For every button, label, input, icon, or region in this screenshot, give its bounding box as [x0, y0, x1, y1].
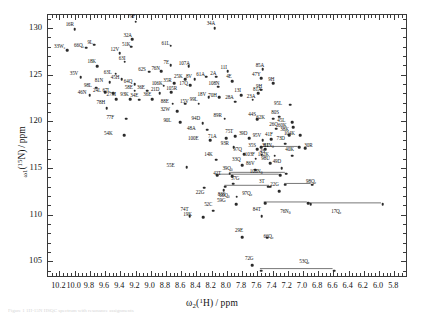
peak-marker[interactable]	[205, 75, 208, 78]
peak-marker[interactable]	[234, 100, 237, 103]
peak-marker[interactable]	[160, 70, 163, 73]
sidechain-peak-marker[interactable]	[229, 172, 232, 175]
peak-marker[interactable]	[95, 86, 98, 89]
peak-marker[interactable]	[73, 28, 76, 31]
peak-marker[interactable]	[231, 175, 234, 178]
sidechain-peak-marker[interactable]	[298, 146, 301, 149]
peak-marker[interactable]	[248, 137, 251, 140]
sidechain-peak-marker[interactable]	[333, 269, 336, 272]
peak-marker[interactable]	[241, 236, 244, 239]
sidechain-peak-marker[interactable]	[260, 269, 263, 272]
sidechain-peak-marker[interactable]	[269, 185, 272, 188]
peak-marker[interactable]	[134, 20, 137, 23]
peak-marker[interactable]	[235, 203, 238, 206]
sidechain-peak-marker[interactable]	[285, 172, 288, 175]
peak-marker[interactable]	[112, 92, 115, 95]
peak-label: 75T	[225, 129, 233, 134]
peak-marker[interactable]	[146, 89, 149, 92]
x-axis-tick	[227, 271, 228, 276]
peak-marker[interactable]	[225, 137, 228, 140]
peak-marker[interactable]	[212, 210, 215, 213]
x-axis-minor-tick	[94, 273, 95, 276]
peak-marker[interactable]	[105, 107, 108, 110]
peak-marker[interactable]	[169, 64, 172, 67]
peak-marker[interactable]	[284, 142, 287, 145]
peak-marker[interactable]	[291, 121, 294, 124]
peak-marker[interactable]	[185, 166, 188, 169]
peak-marker[interactable]	[169, 44, 172, 47]
peak-marker[interactable]	[85, 46, 88, 49]
peak-marker[interactable]	[197, 102, 200, 105]
plot-area[interactable]: 29E72G19K59G83S37G42T74T52C84T3T22G49D55…	[47, 14, 407, 277]
peak-marker[interactable]	[179, 121, 182, 124]
peak-marker[interactable]	[93, 44, 96, 47]
peak-marker[interactable]	[291, 155, 294, 158]
peak-marker[interactable]	[213, 27, 216, 30]
peak-marker[interactable]	[151, 98, 154, 101]
peak-label: 51K	[122, 42, 130, 47]
peak-marker[interactable]	[202, 216, 205, 219]
peak-marker[interactable]	[274, 155, 277, 158]
x-axis-tick	[59, 271, 60, 276]
sidechain-peak-marker[interactable]	[309, 203, 312, 206]
peak-marker[interactable]	[188, 215, 191, 218]
peak-marker[interactable]	[172, 102, 175, 105]
peak-marker[interactable]	[235, 196, 238, 199]
peak-marker[interactable]	[133, 83, 136, 86]
peak-marker[interactable]	[240, 94, 243, 97]
x-axis-minor-tick	[253, 273, 254, 276]
x-axis-minor-tick	[311, 273, 312, 276]
peak-marker[interactable]	[251, 264, 254, 267]
x-axis-tick	[166, 15, 167, 20]
peak-marker[interactable]	[115, 98, 118, 101]
peak-marker[interactable]	[66, 49, 69, 52]
peak-marker[interactable]	[148, 71, 151, 74]
sidechain-peak-marker[interactable]	[284, 183, 287, 186]
peak-marker[interactable]	[269, 162, 272, 165]
sidechain-peak-marker[interactable]	[382, 203, 385, 206]
peak-marker[interactable]	[121, 78, 124, 81]
peak-marker[interactable]	[125, 117, 128, 120]
peak-marker[interactable]	[79, 76, 82, 79]
peak-marker[interactable]	[218, 96, 221, 99]
x-axis-tick-label: 9.6	[99, 282, 109, 290]
peak-marker[interactable]	[270, 138, 273, 141]
sidechain-peak-marker[interactable]	[224, 185, 227, 188]
peak-marker[interactable]	[133, 89, 136, 92]
peak-marker[interactable]	[176, 110, 179, 113]
peak-marker[interactable]	[272, 117, 275, 120]
peak-marker[interactable]	[280, 167, 283, 170]
peak-marker[interactable]	[108, 81, 111, 84]
peak-marker[interactable]	[261, 139, 264, 142]
peak-marker[interactable]	[241, 164, 244, 167]
peak-marker[interactable]	[89, 94, 92, 97]
peak-marker[interactable]	[123, 134, 126, 137]
peak-marker[interactable]	[232, 183, 235, 186]
peak-marker[interactable]	[292, 126, 295, 129]
sidechain-peak-marker[interactable]	[279, 174, 282, 177]
sidechain-peak-marker[interactable]	[260, 146, 263, 149]
peak-marker[interactable]	[129, 98, 132, 101]
peak-marker[interactable]	[215, 158, 218, 161]
peak-marker[interactable]	[114, 72, 117, 75]
peak-marker[interactable]	[231, 80, 234, 83]
peak-marker[interactable]	[189, 84, 192, 87]
peak-marker[interactable]	[96, 65, 99, 68]
peak-marker[interactable]	[223, 117, 226, 120]
peak-marker[interactable]	[256, 118, 259, 121]
peak-marker[interactable]	[232, 146, 235, 149]
peak-marker[interactable]	[278, 190, 281, 193]
peak-marker[interactable]	[234, 135, 237, 138]
sidechain-peak-marker[interactable]	[264, 202, 267, 205]
x-axis-minor-tick	[177, 273, 178, 276]
sidechain-peak-marker[interactable]	[216, 174, 219, 177]
peak-marker[interactable]	[201, 122, 204, 125]
peak-marker[interactable]	[289, 103, 292, 106]
peak-marker[interactable]	[206, 128, 209, 131]
peak-marker[interactable]	[194, 78, 197, 81]
peak-marker[interactable]	[138, 99, 141, 102]
peak-marker[interactable]	[299, 134, 302, 137]
peak-marker[interactable]	[261, 215, 264, 218]
peak-marker[interactable]	[254, 157, 257, 160]
peak-marker[interactable]	[173, 82, 176, 85]
